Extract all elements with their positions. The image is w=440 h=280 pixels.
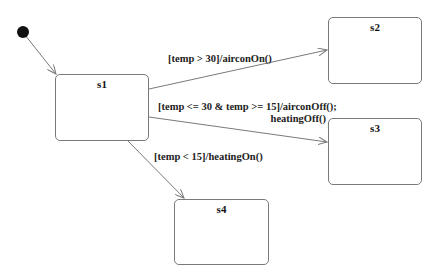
state-s3-name: s3 <box>329 122 421 134</box>
transition-s1-s3-label-line1: [temp <= 30 & temp >= 15]/airconOff(); <box>158 101 337 112</box>
state-s1-name: s1 <box>56 78 148 90</box>
transition-s1-s4 <box>128 141 184 198</box>
state-diagram: s1 s2 s3 s4 [temp > 30]/airconOn() [temp… <box>0 0 440 280</box>
state-s2: s2 <box>328 17 422 84</box>
state-s4-name: s4 <box>175 203 268 215</box>
state-s4: s4 <box>174 199 269 265</box>
transition-s1-s4-label: [temp < 15]/heatingOn() <box>154 151 263 162</box>
state-s2-name: s2 <box>329 21 421 33</box>
transition-initial-s1 <box>25 35 56 74</box>
transition-s1-s3-label-line2: heatingOff() <box>271 113 326 124</box>
initial-state-node <box>17 26 29 38</box>
state-s1: s1 <box>55 74 149 141</box>
transition-s1-s2-label: [temp > 30]/airconOn() <box>168 53 272 64</box>
state-s3: s3 <box>328 118 422 185</box>
